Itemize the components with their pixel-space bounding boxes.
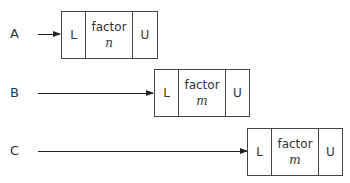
factor-label: factor: [91, 19, 126, 35]
cell-factor: factor n: [85, 12, 132, 58]
cell-u: U: [225, 70, 249, 116]
factor-variable: m: [289, 152, 300, 168]
block-a: L factor n U: [61, 11, 158, 59]
cell-factor: factor m: [178, 70, 225, 116]
cell-l: L: [62, 12, 85, 58]
factor-variable: n: [105, 35, 113, 51]
arrow-a: [38, 34, 60, 35]
cell-l: L: [248, 129, 271, 175]
factor-variable: m: [196, 93, 207, 109]
factor-label: factor: [184, 77, 219, 93]
block-c: L factor m U: [247, 128, 343, 176]
cell-u: U: [318, 129, 342, 175]
row-label-c: C: [10, 143, 19, 158]
factor-label: factor: [277, 136, 312, 152]
arrow-c: [38, 151, 247, 152]
arrow-b: [38, 93, 153, 94]
cell-u: U: [132, 12, 157, 58]
row-label-a: A: [10, 26, 19, 41]
cell-factor: factor m: [271, 129, 318, 175]
row-label-b: B: [10, 85, 19, 100]
block-b: L factor m U: [154, 69, 250, 117]
cell-l: L: [155, 70, 178, 116]
